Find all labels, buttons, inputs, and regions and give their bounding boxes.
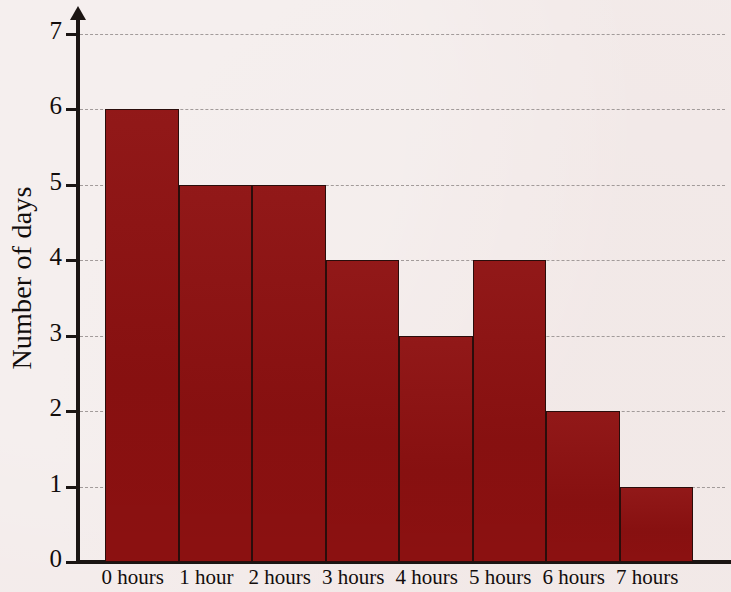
y-axis-title: Number of days bbox=[6, 68, 38, 488]
bar bbox=[546, 411, 620, 562]
bar bbox=[179, 185, 253, 563]
y-tick-mark bbox=[66, 410, 80, 413]
y-tick-label: 6 bbox=[18, 93, 62, 118]
bar bbox=[473, 260, 547, 562]
bar bbox=[399, 336, 473, 563]
y-tick-label: 7 bbox=[18, 18, 62, 43]
y-tick-label: 4 bbox=[18, 244, 62, 269]
x-tick-label: 7 hours bbox=[602, 566, 694, 589]
y-tick-mark bbox=[66, 561, 80, 564]
y-tick-label: 2 bbox=[18, 395, 62, 420]
histogram-chart: Number of days 01234567 0 hours1 hour2 h… bbox=[0, 0, 731, 592]
y-tick-label: 0 bbox=[18, 546, 62, 571]
y-tick-mark bbox=[66, 184, 80, 187]
x-tick-labels-layer: 0 hours1 hour2 hours3 hours4 hours5 hour… bbox=[96, 566, 706, 592]
y-axis-arrowhead bbox=[70, 6, 86, 20]
bar bbox=[252, 185, 326, 563]
y-tick-label: 3 bbox=[18, 320, 62, 345]
y-tick-mark bbox=[66, 486, 80, 489]
y-tick-mark bbox=[66, 33, 80, 36]
bar bbox=[620, 487, 694, 563]
y-tick-mark bbox=[66, 335, 80, 338]
y-tick-mark bbox=[66, 259, 80, 262]
y-tick-label: 5 bbox=[18, 169, 62, 194]
y-tick-mark bbox=[66, 108, 80, 111]
y-axis-line bbox=[76, 18, 80, 564]
bar bbox=[105, 109, 179, 562]
y-tick-label: 1 bbox=[18, 471, 62, 496]
bar bbox=[326, 260, 400, 562]
bars-layer bbox=[105, 0, 693, 562]
